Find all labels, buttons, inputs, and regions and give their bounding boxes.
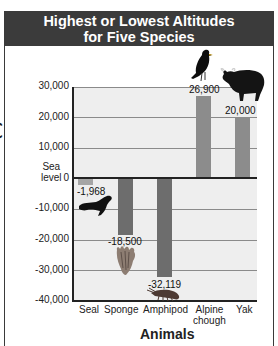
y-axis-title: Elevation (ft) [0,121,2,206]
ytick-neg40000: -40,000 [35,294,69,305]
zero-line [73,177,257,179]
title-line-2: for Five Species [5,29,273,45]
value-label-alpine-chough: 26,900 [189,84,220,95]
y-axis [72,87,74,302]
ytick-20000: 20,000 [38,111,69,122]
x-label-seal: Seal [79,304,99,315]
x-label-amphipod: Amphipod [143,304,188,315]
ytick-neg10000: -10,000 [35,202,69,213]
x-axis-title: Animals [140,326,194,342]
sea-level-label: Sea level [41,161,62,183]
yak-icon [220,68,266,102]
sponge-icon [114,246,138,276]
amphipod-icon [147,287,181,301]
ytick-0: 0 [63,172,69,183]
x-label-alpine: Alpine [193,304,226,315]
x-label-yak: Yak [236,304,253,315]
ytick-30000: 30,000 [38,80,69,91]
x-label-chough: chough [193,315,226,326]
sea-level-line-2: level [41,172,62,183]
sea-level-line-1: Sea [41,161,62,172]
alpine-chough-icon [190,48,214,82]
x-label-alpine-chough: Alpine chough [193,304,226,326]
ytick-10000: 10,000 [38,141,69,152]
seal-icon [78,195,114,217]
ytick-neg20000: -20,000 [35,233,69,244]
x-label-sponge: Sponge [104,304,138,315]
chart-title: Highest or Lowest Altitudes for Five Spe… [5,12,273,46]
value-label-yak: 20,000 [225,105,256,116]
ytick-neg30000: -30,000 [35,264,69,275]
title-line-1: Highest or Lowest Altitudes [5,13,273,29]
